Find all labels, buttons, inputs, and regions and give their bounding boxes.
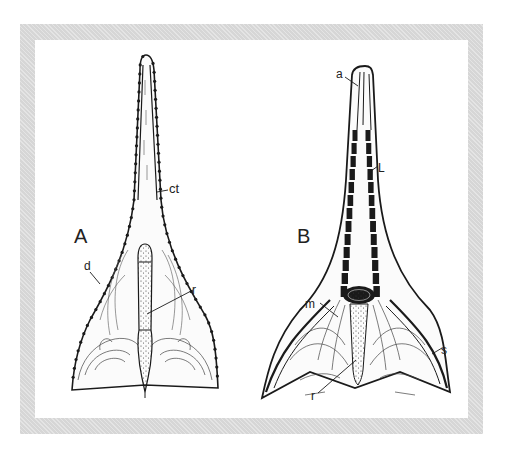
label-a: a xyxy=(336,67,343,81)
denticle xyxy=(132,198,135,201)
denticle xyxy=(181,274,184,277)
band-segment xyxy=(344,247,350,258)
anatomical-illustration: A ct d r xyxy=(0,0,508,453)
band-segment xyxy=(366,143,371,154)
band-segment xyxy=(370,221,376,232)
band-segment xyxy=(371,247,377,258)
denticle xyxy=(121,251,124,254)
denticle xyxy=(79,341,82,344)
band-segment xyxy=(369,195,375,206)
denticle xyxy=(158,170,161,173)
band-segment xyxy=(353,130,358,141)
denticle xyxy=(157,161,160,164)
denticle xyxy=(168,241,171,244)
denticle xyxy=(214,356,217,359)
label-s: s xyxy=(441,343,447,357)
denticle xyxy=(137,99,140,102)
denticle xyxy=(131,207,134,210)
label-ct: ct xyxy=(169,181,180,196)
band-segment xyxy=(351,156,356,167)
denticle xyxy=(134,171,137,174)
band-segment xyxy=(368,182,373,193)
denticle xyxy=(136,126,139,129)
denticle xyxy=(123,242,126,245)
denticle xyxy=(134,162,137,165)
denticle xyxy=(178,266,181,269)
denticle xyxy=(107,284,110,287)
band-segment xyxy=(346,221,352,232)
denticle xyxy=(199,306,202,309)
band-segment xyxy=(366,130,371,141)
denticle xyxy=(157,152,160,155)
band-segment xyxy=(342,273,348,284)
denticle xyxy=(137,90,140,93)
denticle xyxy=(141,55,144,58)
leader-d xyxy=(90,272,100,284)
denticle xyxy=(174,258,177,261)
denticle xyxy=(161,214,164,217)
denticle xyxy=(156,143,159,146)
denticle xyxy=(151,62,154,65)
denticle xyxy=(154,98,157,101)
denticle xyxy=(135,135,138,138)
band-segment xyxy=(349,182,354,193)
denticle xyxy=(194,298,197,301)
denticle xyxy=(155,125,158,128)
denticle xyxy=(156,134,159,137)
denticle xyxy=(73,367,76,370)
denticle xyxy=(216,374,219,377)
denticle xyxy=(133,189,136,192)
denticle xyxy=(126,234,129,237)
denticle xyxy=(207,321,210,324)
denticle xyxy=(72,376,75,379)
denticle xyxy=(103,292,106,295)
band-segment xyxy=(373,273,379,284)
denticle xyxy=(210,330,213,333)
denticle xyxy=(163,223,166,226)
band-segment xyxy=(369,208,375,219)
denticle xyxy=(134,153,137,156)
panel-b-joint xyxy=(348,290,370,301)
denticle xyxy=(159,188,162,191)
panel-a-label: A xyxy=(74,225,88,247)
denticle xyxy=(135,144,138,147)
denticle xyxy=(158,179,161,182)
label-m: m xyxy=(305,297,315,311)
denticle xyxy=(139,63,142,66)
denticle xyxy=(153,89,156,92)
label-l: L xyxy=(378,161,385,175)
denticle xyxy=(215,365,218,368)
band-segment xyxy=(372,260,378,271)
denticle xyxy=(94,308,97,311)
denticle xyxy=(137,108,140,111)
denticle xyxy=(213,348,216,351)
panel-a: A ct d r xyxy=(72,55,219,398)
band-segment xyxy=(345,234,351,245)
denticle xyxy=(99,300,102,303)
band-segment xyxy=(352,143,357,154)
denticle xyxy=(165,232,168,235)
denticle xyxy=(136,117,139,120)
band-segment xyxy=(350,169,355,180)
panel-b-label: B xyxy=(297,225,310,247)
band-segment xyxy=(347,208,353,219)
denticle xyxy=(185,282,188,285)
denticle xyxy=(90,316,93,319)
denticle xyxy=(155,116,158,119)
denticle xyxy=(138,72,141,75)
label-r-b: r xyxy=(311,389,315,403)
denticle xyxy=(203,313,206,316)
denticle xyxy=(77,349,80,352)
denticle xyxy=(74,358,77,361)
label-d: d xyxy=(84,259,91,273)
denticle xyxy=(212,339,215,342)
panel-a-rod xyxy=(138,244,152,392)
band-segment xyxy=(348,195,354,206)
band-segment xyxy=(367,156,372,167)
panel-b: B a L m s r xyxy=(262,66,450,403)
denticle xyxy=(82,332,85,335)
denticle xyxy=(154,107,157,110)
denticle xyxy=(171,249,174,252)
denticle xyxy=(160,206,163,209)
label-r-a: r xyxy=(192,283,196,297)
